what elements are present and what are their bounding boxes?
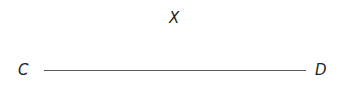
point-x-label: X [169,11,179,26]
line-segment-cd [44,70,306,71]
geometry-figure: X C D [0,0,340,87]
point-d-dot [0,11,6,17]
point-c-label: C [18,63,28,78]
point-d-label: D [315,63,327,78]
